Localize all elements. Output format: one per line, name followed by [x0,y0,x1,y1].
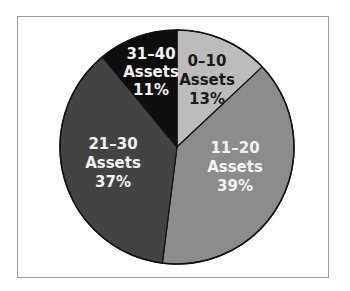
label-percent: 37% [95,173,131,191]
label-range: 0–10 [188,52,227,70]
label-range: 21–30 [88,135,137,153]
label-percent: 13% [189,90,225,108]
label-word: Assets [85,154,141,172]
label-word: Assets [207,158,263,176]
label-range: 11–20 [210,139,259,157]
label-word: Assets [123,63,179,81]
label-word: Assets [179,71,235,89]
label-range: 31–40 [126,45,175,63]
label-percent: 39% [217,177,253,195]
pie-chart: 0–10 Assets 13% 11–20 Assets 39% 21–30 A… [0,0,350,291]
label-percent: 11% [133,81,169,99]
